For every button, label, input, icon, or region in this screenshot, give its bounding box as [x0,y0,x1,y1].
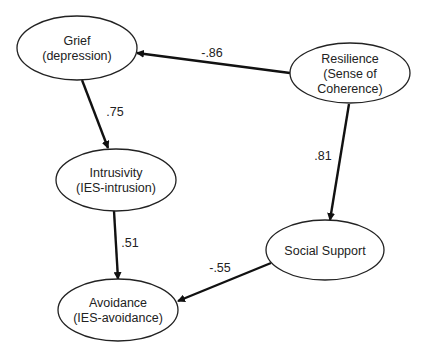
ellipse-icon [56,149,176,211]
node-label-line: (IES-intrusion) [76,181,156,195]
node-label-line: Grief [63,34,91,48]
edge-coefficient-label: .75 [106,105,123,119]
arrow-icon [114,211,118,279]
arrow-icon [82,80,108,148]
node-label-line: (depression) [42,49,111,63]
node-social-support: Social Support [266,220,384,280]
node-resilience: Resilience(Sense ofCoherence) [290,43,410,103]
path-diagram: -.86.75.81.51-.55 Grief(depression)Resil… [0,0,426,357]
ellipse-icon [58,279,178,341]
ellipse-icon [17,16,137,80]
node-label-line: (IES-avoidance) [73,311,163,325]
edge-resilience-to-social-support: .81 [314,104,349,220]
node-label-line: Social Support [284,244,366,258]
edge-resilience-to-grief: -.86 [137,46,290,73]
node-avoidance: Avoidance(IES-avoidance) [58,279,178,341]
nodes-layer: Grief(depression)Resilience(Sense ofCohe… [17,16,410,341]
node-label-line: Intrusivity [90,166,144,180]
edge-coefficient-label: .81 [314,149,331,163]
node-grief: Grief(depression) [17,16,137,80]
node-label-line: Coherence) [317,82,382,96]
edge-coefficient-label: .51 [121,236,138,250]
edge-coefficient-label: -.55 [209,261,231,275]
edge-coefficient-label: -.86 [201,46,223,60]
arrow-icon [330,104,349,220]
node-label-line: Resilience [321,52,379,66]
edge-social-support-to-avoidance: -.55 [178,261,271,301]
node-label-line: Avoidance [89,296,147,310]
node-intrusivity: Intrusivity(IES-intrusion) [56,149,176,211]
edge-intrusivity-to-avoidance: .51 [114,211,139,279]
edge-grief-to-intrusivity: .75 [82,80,124,148]
node-label-line: (Sense of [323,67,377,81]
